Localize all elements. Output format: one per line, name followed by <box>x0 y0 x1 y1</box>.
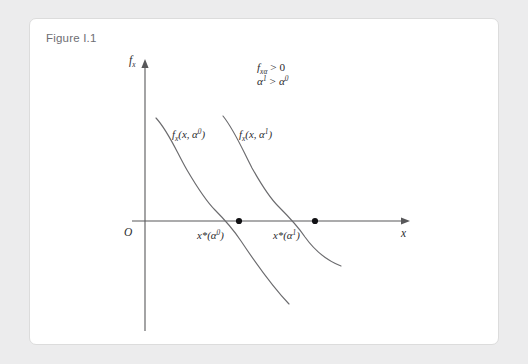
curve-label-alpha1: fx(x, α1) <box>239 127 272 143</box>
root-label-alpha1: x*(α1) <box>272 228 300 242</box>
x-axis-arrowhead <box>401 217 410 224</box>
y-axis-label: fx <box>129 54 136 69</box>
x-axis-label: x <box>400 227 407 239</box>
condition-fxalpha: fxα>0 <box>257 61 286 76</box>
condition-annotations: fxα>0 α1>α0 <box>257 61 289 87</box>
origin-label: O <box>124 226 133 238</box>
curve-label-alpha0: fx(x, α0) <box>172 127 205 143</box>
root-label-alpha0: x*(α0) <box>196 228 224 242</box>
curve-alpha1-group: fx(x, α1) x*(α1) <box>223 116 341 266</box>
y-axis-arrowhead <box>141 59 148 68</box>
root-dot-alpha1 <box>312 218 318 224</box>
curve-alpha0-group: fx(x, α0) x*(α0) <box>156 118 289 304</box>
root-dot-alpha0 <box>236 218 242 224</box>
plot-area: fx x O fxα>0 α1>α0 fx(x, α0) x*(α0) <box>30 19 500 346</box>
y-axis: fx <box>129 54 149 331</box>
figure-card: Figure I.1 fx x O fxα>0 α1>α0 <box>29 18 499 345</box>
plot-svg: fx x O fxα>0 α1>α0 fx(x, α0) x*(α0) <box>30 19 500 346</box>
x-axis: x <box>132 217 410 239</box>
condition-alpha-order: α1>α0 <box>257 74 289 87</box>
curve-alpha0 <box>156 118 289 304</box>
